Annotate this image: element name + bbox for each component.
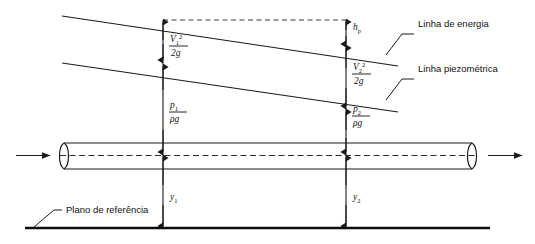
station-2-velocity-head-label: V22 2g	[352, 61, 371, 87]
datum-label: Plano de referência	[66, 204, 149, 215]
piezometric-line-label-leader	[386, 79, 414, 100]
head-loss-label: hp	[353, 22, 361, 34]
hydraulic-grade-line	[62, 63, 398, 112]
station-1-pressure-denominator: ρg	[169, 114, 180, 124]
energy-line-label-leader	[386, 34, 414, 55]
station-1-velocity-exponent: 2	[179, 33, 182, 40]
svg-text:p1: p1	[169, 100, 178, 112]
station-1-pressure-head-label: p1 ρg	[169, 100, 187, 124]
energy-line-label: Linha de energia	[418, 18, 489, 29]
station-1-velocity-head-label: V12 2g	[169, 33, 188, 59]
energy-grade-line-diagram: Linha de energia Linha piezométrica Plan…	[0, 0, 535, 244]
station-2-velocity-exponent: 2	[362, 61, 365, 68]
piezometric-line-label: Linha piezométrica	[418, 63, 498, 74]
svg-text:p2: p2	[352, 104, 361, 116]
station-2-pressure-denominator: ρg	[352, 118, 363, 128]
station-2-elevation-label: y2	[352, 192, 360, 204]
station-1-elevation-subscript: 1	[174, 197, 177, 204]
svg-text:V12: V12	[170, 33, 182, 46]
station-1-velocity-denominator: 2g	[171, 48, 181, 58]
datum-label-leader	[34, 210, 62, 227]
station-2-pressure-subscript: 2	[358, 109, 361, 116]
station-2-elevation-subscript: 2	[357, 197, 360, 204]
station-1-elevation-label: y1	[169, 192, 177, 204]
energy-grade-line	[62, 16, 398, 66]
station-1-pressure-subscript: 1	[175, 105, 178, 112]
svg-text:V22: V22	[353, 61, 365, 74]
head-loss-subscript: p	[358, 27, 361, 34]
station-2-velocity-denominator: 2g	[354, 76, 364, 86]
diagram-canvas: Linha de energia Linha piezométrica Plan…	[0, 0, 535, 244]
station-1-velocity-subscript: 1	[176, 39, 179, 46]
station-2-velocity-subscript: 2	[359, 67, 362, 74]
